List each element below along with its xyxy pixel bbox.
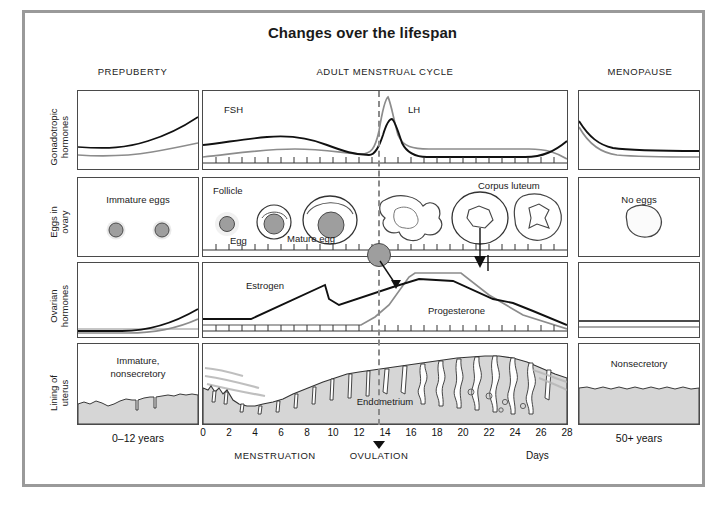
phase-heading-adult: ADULT MENSTRUAL CYCLE (200, 66, 570, 77)
progesterone-label: Progesterone (428, 305, 485, 316)
prepuberty-lining-line1: Immature, (77, 355, 199, 366)
phase-heading-prepuberty: PREPUBERTY (60, 66, 205, 77)
row-label-line1: Lining of (48, 343, 59, 443)
corpus-luteum-arrow (460, 228, 500, 272)
axis-tick-24: 24 (506, 427, 524, 438)
menopause-lining-caption: Nonsecretory (578, 358, 700, 369)
menopause-age-range: 50+ years (578, 432, 700, 444)
menopause-eggs-caption: No eggs (578, 194, 700, 205)
mature-egg-label: Mature egg (287, 233, 335, 244)
panel-adult-lining (202, 343, 568, 425)
axis-tick-12: 12 (350, 427, 368, 438)
estrogen-label: Estrogen (246, 280, 284, 291)
phase-heading-menopause: MENOPAUSE (575, 66, 705, 77)
endometrium-label: Endometrium (202, 396, 568, 407)
prepuberty-lining-caption: Immature, nonsecretory (77, 355, 199, 379)
follicle-label: Follicle (213, 185, 243, 196)
menstruation-label: MENSTRUATION (205, 450, 345, 461)
row-label-line2: uterus (59, 343, 70, 443)
row-label-line1: Ovarian (48, 256, 59, 356)
axis-tick-16: 16 (402, 427, 420, 438)
panel-prepuberty-ovarian (77, 262, 199, 338)
panel-adult-gonadotropic (202, 90, 568, 170)
ovulation-marker-triangle (373, 441, 385, 449)
panel-prepuberty-eggs (77, 177, 199, 257)
fsh-label: FSH (224, 104, 243, 115)
axis-tick-14: 14 (376, 427, 394, 438)
axis-tick-18: 18 (428, 427, 446, 438)
axis-tick-28: 28 (558, 427, 576, 438)
axis-tick-26: 26 (532, 427, 550, 438)
days-axis-label: Days (526, 450, 549, 461)
panel-menopause-gonadotropic (578, 90, 700, 170)
axis-tick-22: 22 (480, 427, 498, 438)
axis-tick-10: 10 (324, 427, 342, 438)
prepuberty-lining-line2: nonsecretory (77, 368, 199, 379)
panel-menopause-lining (578, 343, 700, 425)
prepuberty-age-range: 0–12 years (77, 432, 199, 444)
diagram-root: Changes over the lifespan PREPUBERTY ADU… (0, 0, 725, 520)
row-label-line2: hormones (59, 256, 70, 356)
panel-menopause-ovarian (578, 262, 700, 338)
row-label-lining: Lining of uterus (48, 343, 70, 443)
panel-prepuberty-gonadotropic (77, 90, 199, 170)
axis-tick-2: 2 (220, 427, 238, 438)
axis-tick-20: 20 (454, 427, 472, 438)
row-label-ovarian: Ovarian hormones (48, 256, 70, 356)
corpus-luteum-label: Corpus luteum (478, 180, 540, 191)
page-title: Changes over the lifespan (0, 24, 725, 41)
prepuberty-eggs-caption: Immature eggs (77, 194, 199, 205)
lh-label: LH (408, 104, 420, 115)
egg-label: Egg (230, 235, 247, 246)
axis-tick-0: 0 (194, 427, 212, 438)
axis-tick-8: 8 (298, 427, 316, 438)
ovulation-label: OVULATION (329, 450, 429, 461)
axis-tick-4: 4 (246, 427, 264, 438)
panel-menopause-eggs (578, 177, 700, 257)
axis-tick-6: 6 (272, 427, 290, 438)
